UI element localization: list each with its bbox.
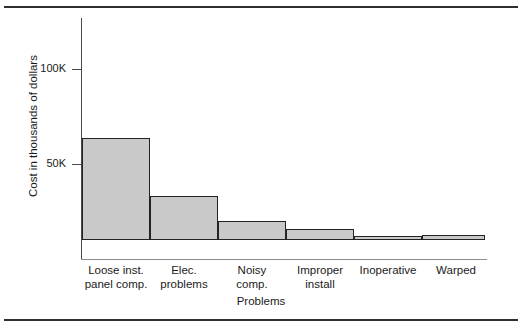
cat-label-line1: Inoperative [360, 264, 417, 276]
pareto-chart-figure: 100K 50K Cost in thousands of dollars Lo… [0, 0, 522, 331]
y-tick-50k [72, 164, 81, 165]
cat-label-line1: Elec. [171, 264, 197, 276]
bar-noisy-comp [218, 221, 286, 240]
bar-warped [422, 235, 485, 240]
bar-elec-problems [150, 196, 218, 240]
y-axis-title: Cost in thousands of dollars [27, 41, 39, 211]
bar-series [82, 18, 486, 240]
cat-label-line2: install [276, 277, 364, 291]
bar-improper-install [286, 229, 354, 240]
bar-inoperative [354, 236, 422, 240]
bar-loose-inst-panel-comp [82, 138, 150, 241]
bottom-divider-rule [4, 319, 518, 321]
cat-label-line1: Loose inst. [88, 264, 144, 276]
cat-label-line1: Noisy [238, 264, 267, 276]
x-axis-baseline [81, 259, 487, 260]
cat-label-warped: Warped [412, 263, 500, 277]
cat-label-line1: Improper [297, 264, 343, 276]
y-tick-100k [72, 69, 81, 70]
top-divider-rule [4, 6, 518, 8]
x-axis-title: Problems [0, 295, 522, 307]
cat-label-line1: Warped [436, 264, 476, 276]
